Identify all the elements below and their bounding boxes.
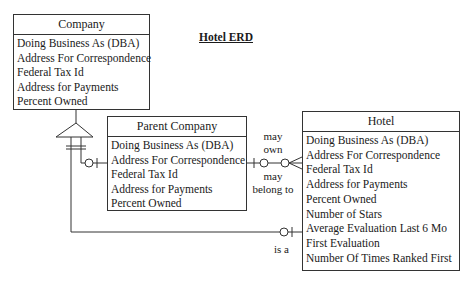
entity-company[interactable]: Company Doing Business As (DBA) Address … [13, 14, 150, 110]
attribute: Address For Correspondence [306, 148, 459, 163]
attribute-list: Doing Business As (DBA) Address For Corr… [14, 35, 149, 109]
attribute: Address For Correspondence [111, 153, 246, 168]
attribute: Federal Tax Id [111, 167, 246, 182]
attribute: Address for Payments [17, 80, 149, 95]
attribute: Doing Business As (DBA) [111, 138, 246, 153]
attribute: Address for Payments [306, 177, 459, 192]
label-line: may [258, 130, 288, 143]
attribute: Number of Stars [306, 207, 459, 222]
attribute: Federal Tax Id [17, 65, 149, 80]
label-line: own [258, 143, 288, 156]
attribute: Doing Business As (DBA) [17, 36, 149, 51]
label-line: belong to [248, 183, 298, 196]
attribute-list: Doing Business As (DBA) Address For Corr… [108, 137, 246, 211]
attribute: Address For Correspondence [17, 51, 149, 66]
attribute: First Evaluation [306, 236, 459, 251]
attribute: Percent Owned [306, 192, 459, 207]
zero-circle-icon [280, 228, 288, 236]
crows-foot-icon [289, 157, 302, 163]
entity-name: Hotel [303, 112, 459, 132]
label-may-belong-to: may belong to [248, 170, 298, 196]
attribute: Federal Tax Id [306, 162, 459, 177]
company-parent-line [81, 137, 85, 163]
subtype-triangle-icon [56, 123, 93, 137]
zero-circle-icon [281, 159, 289, 167]
attribute: Average Evaluation Last 6 Mo [306, 221, 459, 236]
diagram-title: Hotel ERD [199, 31, 253, 43]
attribute: Number Of Times Ranked First [306, 251, 459, 266]
entity-parent-company[interactable]: Parent Company Doing Business As (DBA) A… [107, 116, 247, 211]
zero-circle-icon [85, 159, 93, 167]
entity-hotel[interactable]: Hotel Doing Business As (DBA) Address Fo… [302, 111, 460, 271]
attribute: Percent Owned [111, 196, 246, 211]
label-line: may [248, 170, 298, 183]
entity-name: Company [14, 15, 149, 35]
entity-name: Parent Company [108, 117, 246, 137]
attribute: Address for Payments [111, 182, 246, 197]
attribute: Percent Owned [17, 94, 149, 109]
label-may-own: may own [258, 130, 288, 156]
attribute-list: Doing Business As (DBA) Address For Corr… [303, 132, 459, 265]
zero-circle-icon [260, 159, 268, 167]
attribute: Doing Business As (DBA) [306, 133, 459, 148]
label-is-a: is a [274, 243, 289, 256]
